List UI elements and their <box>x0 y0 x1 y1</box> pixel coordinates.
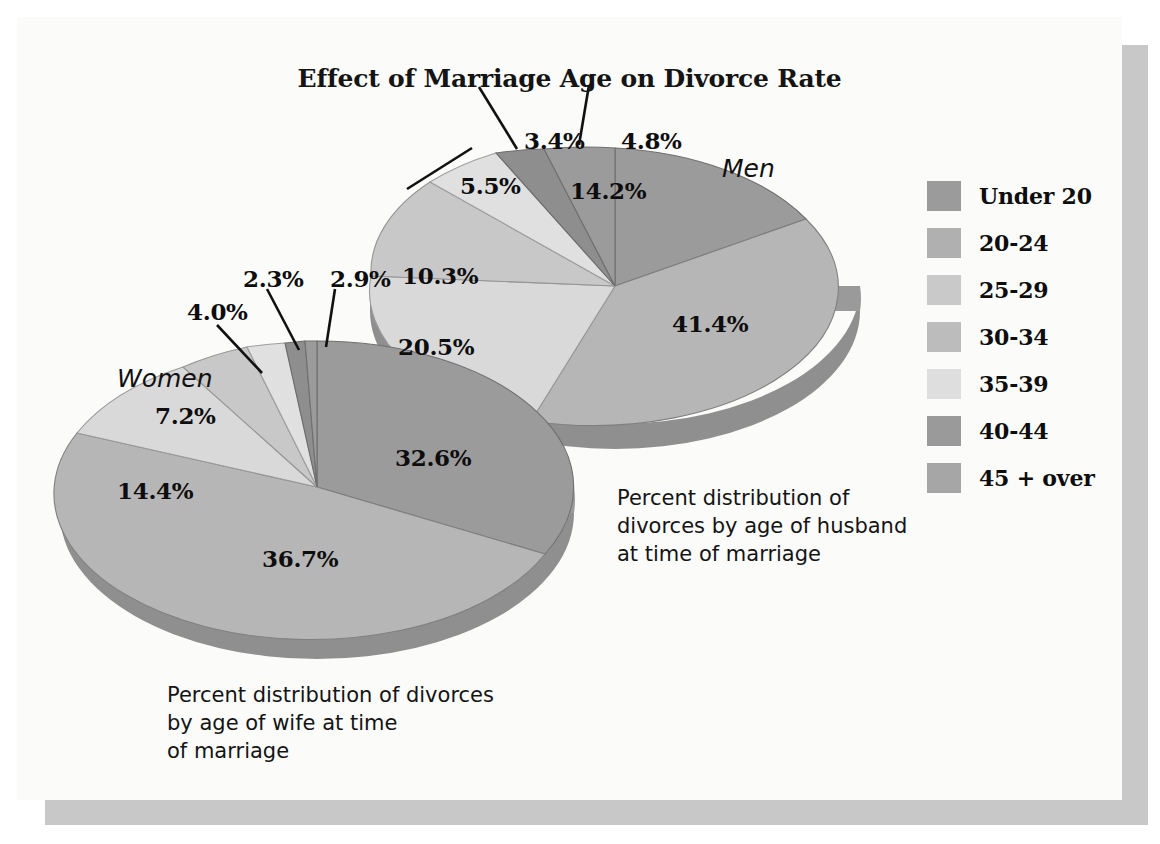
women-caption: Percent distribution of divorces by age … <box>167 682 494 766</box>
women-value-30-34: 7.2% <box>155 402 216 429</box>
legend-label-40-44: 40-44 <box>979 418 1048 444</box>
women-value-under-20: 32.6% <box>395 444 471 471</box>
series-label-women: Women <box>117 364 213 393</box>
women-value-40-44: 2.3% <box>243 265 304 292</box>
women-value-20-24: 36.7% <box>262 545 338 572</box>
legend: Under 20 20-24 25-29 30-34 35-39 40-44 <box>927 172 1095 501</box>
legend-label-25-29: 25-29 <box>979 277 1048 303</box>
men-value-20-24: 41.4% <box>672 310 748 337</box>
legend-label-35-39: 35-39 <box>979 371 1048 397</box>
men-value-25-29: 20.5% <box>398 333 474 360</box>
leader-line-women-40-44 <box>267 289 299 350</box>
legend-item-35-39[interactable]: 35-39 <box>927 360 1095 407</box>
legend-swatch-icon-40-44 <box>927 416 961 446</box>
men-value-40-44: 3.4% <box>524 127 585 154</box>
men-value-under-20: 14.2% <box>570 177 646 204</box>
women-value-45-over: 2.9% <box>330 265 391 292</box>
legend-swatch-icon-under-20 <box>927 181 961 211</box>
legend-item-20-24[interactable]: 20-24 <box>927 219 1095 266</box>
legend-swatch-icon-25-29 <box>927 275 961 305</box>
series-label-men: Men <box>722 154 775 183</box>
leader-line-men-40-44 <box>479 87 517 149</box>
men-caption: Percent distribution of divorces by age … <box>617 485 907 569</box>
panel-shadow-right <box>1122 45 1148 825</box>
women-value-25-29: 14.4% <box>117 477 193 504</box>
panel-shadow-bottom <box>45 800 1148 825</box>
legend-item-40-44[interactable]: 40-44 <box>927 407 1095 454</box>
legend-label-45-over: 45 + over <box>979 465 1095 491</box>
legend-item-25-29[interactable]: 25-29 <box>927 266 1095 313</box>
legend-item-30-34[interactable]: 30-34 <box>927 313 1095 360</box>
legend-swatch-icon-30-34 <box>927 322 961 352</box>
legend-swatch-icon-20-24 <box>927 228 961 258</box>
legend-label-under-20: Under 20 <box>979 183 1092 209</box>
men-value-35-39: 5.5% <box>460 172 521 199</box>
legend-swatch-icon-45-over <box>927 463 961 493</box>
women-value-35-39: 4.0% <box>187 298 248 325</box>
leader-line-women-45-over <box>326 289 335 347</box>
chart-panel: Effect of Marriage Age on Divorce Rate <box>17 17 1122 800</box>
legend-label-20-24: 20-24 <box>979 230 1048 256</box>
legend-label-30-34: 30-34 <box>979 324 1048 350</box>
men-value-45-over: 4.8% <box>621 127 682 154</box>
legend-item-under-20[interactable]: Under 20 <box>927 172 1095 219</box>
chart-figure: Effect of Marriage Age on Divorce Rate <box>0 0 1160 844</box>
men-value-30-34: 10.3% <box>402 262 478 289</box>
legend-swatch-icon-35-39 <box>927 369 961 399</box>
legend-item-45-over[interactable]: 45 + over <box>927 454 1095 501</box>
